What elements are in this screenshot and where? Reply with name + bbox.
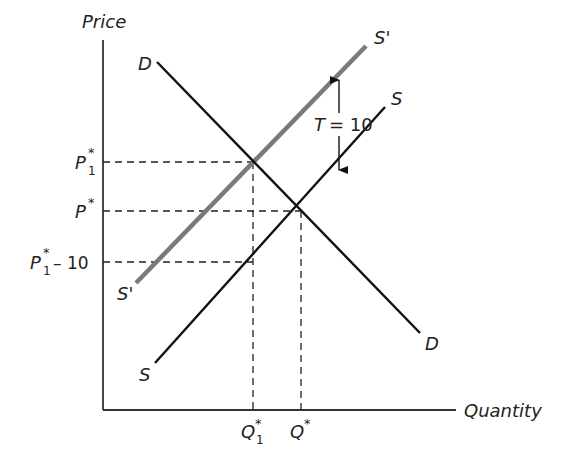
demand-curve [157,62,420,333]
x-tick-q1-star: Q * 1 [241,416,264,447]
y-tick-p1-minus-10: P * 1 – 10 [30,245,89,278]
y-tick-p1-star: P * 1 [75,145,96,178]
q1-star-asterisk: * [255,416,262,431]
p-star-base: P [75,201,86,222]
q-star-asterisk: * [304,416,311,431]
x-axis-label: Quantity [464,400,542,421]
tax-value: = 10 [329,114,373,135]
x-tick-q-star: Q * [290,416,311,442]
q-star-base: Q [290,421,304,442]
p1-minus-subscript: 1 [43,264,51,278]
p1-minus-asterisk: * [43,245,50,260]
demand-label-top: D [138,53,152,74]
diagram-canvas: Price Quantity D D S S S' S' T = 10 P * … [0,0,574,463]
demand-label-bottom: D [425,333,439,354]
y-axis-label: Price [82,11,126,32]
q1-star-subscript: 1 [256,433,264,447]
p1-minus-base: P [30,252,41,273]
q1-star-base: Q [241,421,255,442]
shifted-supply-label-top: S' [374,27,390,48]
tax-symbol: T [314,114,327,135]
p1-minus-ten: – 10 [53,253,89,273]
p-star-asterisk: * [88,195,95,210]
y-tick-p-star: P * [75,195,95,222]
tax-annotation: T = 10 [314,114,373,135]
shifted-supply-curve [136,46,366,283]
tax-supply-demand-diagram: Price Quantity D D S S S' S' T = 10 P * … [0,0,574,463]
supply-label-top: S [391,88,402,109]
p1-star-asterisk: * [88,145,95,160]
shifted-supply-label-bottom: S' [117,283,133,304]
supply-label-bottom: S [139,364,150,385]
p1-star-base: P [75,152,86,173]
p1-star-subscript: 1 [88,164,96,178]
